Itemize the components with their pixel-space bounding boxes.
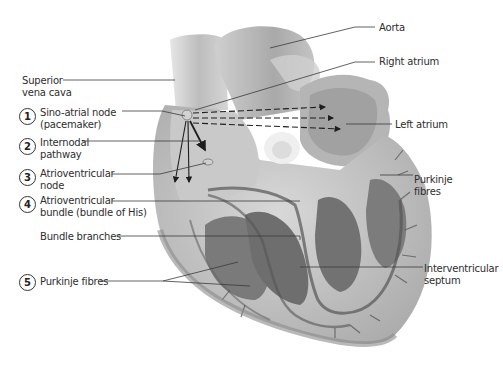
number-badge-2: 2 <box>19 138 36 155</box>
label-line: pathway <box>40 149 89 161</box>
label-bundle-branches: Bundle branches <box>40 231 121 243</box>
label-line: Right atrium <box>379 56 439 68</box>
number-badge-3: 3 <box>19 169 36 186</box>
number-badge-1: 1 <box>19 108 36 125</box>
label-line: vena cava <box>22 87 72 99</box>
number-badge-5: 5 <box>19 274 36 291</box>
label-aorta: Aorta <box>379 22 405 34</box>
label-line: fibres <box>414 186 453 198</box>
label-right-atrium: Right atrium <box>379 56 439 68</box>
sa-node-shape <box>182 110 192 120</box>
label-purkinje-fibres-right: Purkinje fibres <box>414 174 453 197</box>
heart-conduction-diagram: Superior vena cava 1 Sino-atrial node (p… <box>0 0 503 365</box>
label-line: Sino-atrial node <box>40 107 116 119</box>
label-atrioventricular-bundle: Atrioventricular bundle (bundle of His) <box>40 195 147 218</box>
label-line: (pacemaker) <box>40 119 116 131</box>
label-line: septum <box>424 275 498 287</box>
av-node-shape <box>203 159 213 165</box>
label-atrioventricular-node: Atrioventricular node <box>40 168 114 191</box>
label-purkinje-fibres-left: Purkinje fibres <box>40 276 108 288</box>
label-line: Bundle branches <box>40 231 121 243</box>
label-sino-atrial-node: Sino-atrial node (pacemaker) <box>40 107 116 130</box>
label-interventricular-septum: Interventricular septum <box>424 263 498 286</box>
label-internodal-pathway: Internodal pathway <box>40 137 89 160</box>
label-left-atrium: Left atrium <box>395 119 448 131</box>
label-line: bundle (bundle of His) <box>40 207 147 219</box>
label-line: Left atrium <box>395 119 448 131</box>
label-superior-vena-cava: Superior vena cava <box>22 75 72 98</box>
label-line: Interventricular <box>424 263 498 275</box>
label-line: Purkinje <box>414 174 453 186</box>
label-line: node <box>40 180 114 192</box>
label-line: Purkinje fibres <box>40 276 108 288</box>
label-line: Aorta <box>379 22 405 34</box>
label-line: Atrioventricular <box>40 195 147 207</box>
label-line: Superior <box>22 75 72 87</box>
number-badge-4: 4 <box>19 196 36 213</box>
label-line: Internodal <box>40 137 89 149</box>
label-line: Atrioventricular <box>40 168 114 180</box>
